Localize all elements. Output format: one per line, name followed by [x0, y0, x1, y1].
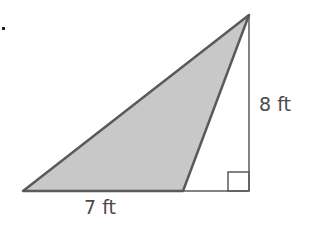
height-label: 8 ft [259, 93, 291, 115]
base-label: 7 ft [84, 196, 116, 218]
shaded-triangle [23, 15, 249, 191]
bullet-dot [2, 27, 5, 30]
right-angle-marker [228, 172, 249, 191]
